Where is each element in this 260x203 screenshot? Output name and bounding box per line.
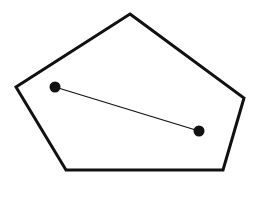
pentagon [16, 14, 244, 170]
diagram-canvas [0, 0, 260, 203]
point-a [50, 82, 61, 93]
point-b [194, 126, 205, 137]
